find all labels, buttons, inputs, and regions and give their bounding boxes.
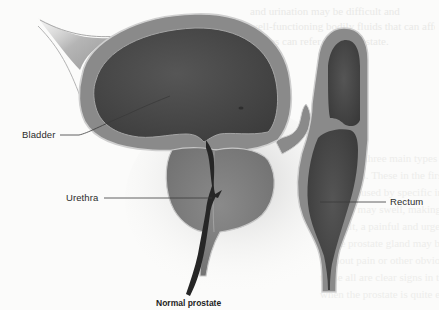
figure-caption: Normal prostate [156, 298, 221, 308]
rectum-label: Rectum [390, 196, 423, 207]
urethra-label: Urethra [66, 192, 98, 203]
prostate-anatomy-diagram [0, 0, 439, 310]
figure-page: and urination may be difficult and well-… [0, 0, 439, 310]
bladder-label: Bladder [22, 129, 55, 140]
rectum-upper-lumen [328, 40, 360, 126]
